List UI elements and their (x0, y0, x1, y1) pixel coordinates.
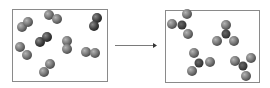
product-molecules (167, 9, 256, 81)
atom (15, 42, 25, 52)
atom (45, 59, 55, 69)
reactant-molecules (15, 10, 102, 77)
atom (90, 48, 100, 58)
outer-atom (189, 48, 199, 58)
diatomic-molecule (81, 47, 100, 58)
outer-atom (212, 36, 222, 46)
atom (62, 44, 72, 54)
diatomic-molecule (35, 32, 52, 47)
center-atom (222, 30, 231, 39)
diatomic-molecule (62, 36, 72, 54)
outer-atom (187, 66, 197, 76)
center-atom (178, 21, 187, 30)
outer-atom (182, 9, 192, 19)
diatomic-molecule (44, 10, 62, 24)
atom (89, 21, 99, 31)
atom (52, 14, 62, 24)
diatomic-molecule (15, 42, 32, 60)
outer-atom (205, 57, 215, 67)
outer-atom (246, 53, 256, 63)
outer-atom (221, 20, 231, 30)
atom (81, 47, 91, 57)
center-atom (239, 62, 248, 71)
outer-atom (183, 29, 193, 39)
tetrahedral-molecule (212, 20, 239, 46)
outer-atom (230, 56, 240, 66)
diatomic-molecule (39, 59, 55, 77)
reaction-arrow (115, 43, 157, 48)
reaction-diagram (0, 0, 270, 88)
tetrahedral-molecule (187, 48, 215, 76)
atom (39, 67, 49, 77)
outer-atom (241, 71, 251, 81)
diatomic-molecule (89, 13, 102, 31)
outer-atom (229, 36, 239, 46)
atom (23, 17, 33, 27)
atom (22, 50, 32, 60)
tetrahedral-molecule (230, 53, 256, 81)
outer-atom (167, 19, 177, 29)
center-atom (195, 59, 204, 68)
atom (42, 32, 52, 42)
diatomic-molecule (17, 17, 33, 32)
tetrahedral-molecule (167, 9, 193, 39)
